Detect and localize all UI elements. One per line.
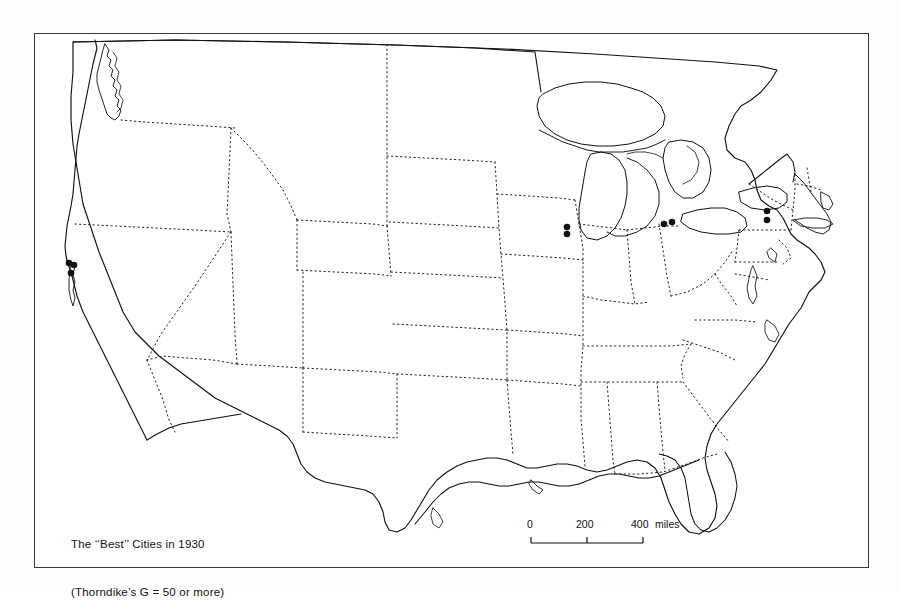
border-plains-east (495, 162, 507, 380)
border-in-oh (659, 224, 671, 296)
border-nv-ut (231, 232, 237, 364)
border-md-va (735, 274, 769, 280)
border-or-ca-nv (75, 224, 231, 232)
border-il-ky (583, 296, 649, 304)
border-mn-ia (497, 194, 575, 200)
city-dot[interactable] (764, 217, 771, 224)
border-ar-la (507, 380, 581, 386)
scale-tick-label-400: 400 (631, 518, 649, 530)
scale-tick-label-0: 0 (527, 518, 533, 530)
border-co-nm (303, 368, 397, 374)
border-ca-az (147, 360, 175, 432)
map-ink (65, 40, 833, 534)
lake-erie (681, 208, 747, 234)
delaware-bay (767, 248, 777, 262)
border-ky-tn (583, 344, 691, 346)
us-map-svg (35, 34, 870, 569)
scale-bar: 0 200 400 miles (527, 518, 697, 558)
border-mt-wy (297, 220, 387, 226)
map-caption: The ‘‘Best’’ Cities in 1930 (Thorndike’s… (71, 504, 224, 602)
border-al-ga (657, 382, 665, 470)
border-wy-ut-co (297, 270, 391, 276)
map-frame: The ‘‘Best’’ Cities in 1930 (Thorndike’s… (34, 33, 869, 568)
lake-huron (663, 140, 711, 198)
border-ca-nv (147, 232, 231, 360)
border-id-west (227, 128, 231, 232)
lake-ontario (739, 186, 787, 210)
border-sd-ne (389, 222, 499, 228)
border-ga-sc (683, 382, 729, 442)
city-dot[interactable] (71, 262, 78, 269)
border-wv-va (715, 274, 737, 306)
scale-unit-label: miles (655, 518, 680, 530)
border-il-in (627, 230, 635, 304)
border-oh-ky-wv (671, 250, 733, 296)
border-ia-mo (501, 254, 583, 260)
border-ut-az (237, 364, 303, 368)
border-ks-ok (393, 324, 507, 330)
border-wy-east (387, 226, 391, 276)
scale-tick-label-200: 200 (576, 518, 594, 530)
scale-bar-graphic (527, 533, 697, 549)
caption-line-1: The ‘‘Best’’ Cities in 1930 (71, 536, 224, 552)
border-nc-sc (683, 340, 735, 360)
southwest-border (147, 414, 241, 440)
border-ne-ks (391, 272, 503, 278)
city-dot[interactable] (564, 231, 571, 238)
san-francisco-bay (69, 262, 75, 306)
puget-sound-detail (97, 44, 121, 120)
city-dot[interactable] (661, 221, 668, 228)
michigan-lower-peninsula (607, 158, 659, 236)
us-national-outline (71, 40, 825, 534)
cape-cod (821, 192, 833, 210)
border-nj (779, 240, 791, 264)
border-wa-or (121, 120, 235, 128)
city-dot[interactable] (68, 270, 75, 277)
border-mo-ar (507, 330, 583, 336)
border-id-mt (231, 128, 297, 220)
border-mississippi-river (575, 200, 585, 466)
michigan-upper-peninsula (539, 130, 665, 152)
straits-of-mackinac (627, 152, 663, 158)
state-boundaries (75, 45, 821, 474)
georgian-bay-detail (683, 146, 699, 184)
border-ok-tx (397, 374, 507, 380)
city-dot[interactable] (764, 208, 771, 215)
outer-banks (765, 320, 779, 342)
city-dots (66, 208, 771, 277)
city-dot[interactable] (564, 224, 571, 231)
border-gulf-states-fl (615, 454, 717, 474)
border-nd-sd (387, 156, 495, 162)
border-pa-oh (735, 230, 739, 262)
border-ne-states (797, 184, 821, 190)
border-wi-il (579, 224, 627, 230)
border-va-nc (695, 320, 757, 322)
chesapeake-bay (747, 266, 757, 304)
st-lawrence-border (749, 154, 795, 184)
border-mi-south (627, 226, 679, 230)
caption-line-2: (Thorndike’s G = 50 or more) (71, 584, 224, 600)
border-tx-la (507, 380, 513, 454)
border-ms-al (607, 382, 615, 474)
border-nm-south (303, 432, 397, 438)
texas-gulf-barrier (431, 508, 443, 528)
city-dot[interactable] (669, 219, 676, 226)
lake-superior (537, 82, 665, 146)
pacific-coastline (65, 40, 147, 440)
border-tn-nc (681, 344, 691, 378)
northern-border (73, 40, 541, 92)
